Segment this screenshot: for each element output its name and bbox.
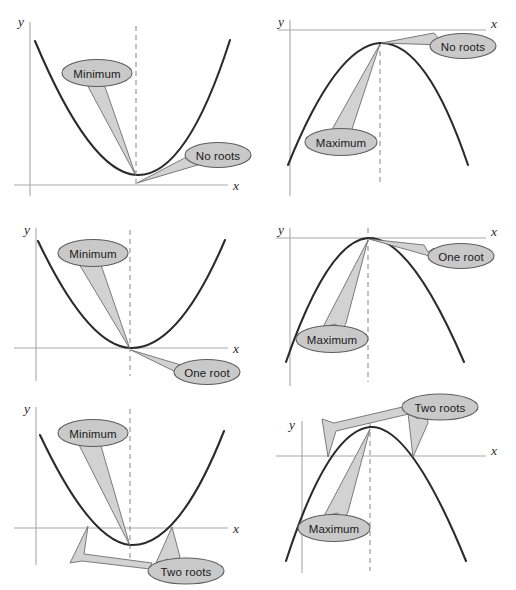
callout-one-root-label: One root [184,367,230,379]
callout-minimum-label: Minimum [69,248,116,260]
callout-minimum-label: Minimum [69,428,116,440]
callout-one-root-label: One root [438,251,484,263]
callout-two-roots-label: Two roots [415,402,466,414]
callout-minimum: Minimum [58,240,130,350]
callout-maximum-label: Maximum [316,137,367,149]
callout-maximum-label: Maximum [307,334,358,346]
callout-maximum: Maximum [305,44,380,156]
panel-top-right: y x No roots Maximum [258,0,516,197]
x-axis-label: x [490,16,497,31]
callout-no-roots-label: No roots [441,41,485,53]
parabola-curve [286,427,466,561]
callout-no-roots: No roots [137,143,251,184]
callout-maximum-pointer [330,44,380,141]
callout-maximum: Maximum [298,429,370,542]
panel-bottom-right: y x Two roots Maximum [258,393,516,590]
callout-one-root: One root [369,239,494,269]
callout-two-roots-label: Two roots [161,566,212,578]
panel-middle-left: y x Minimum One root [0,196,258,393]
x-axis-label: x [232,521,239,536]
panel-top-left: y x Minimum No roots [0,0,258,197]
callout-minimum-label: Minimum [73,68,120,80]
callout-no-roots-label: No roots [196,150,240,162]
y-axis-label: y [22,401,30,416]
panel-bottom-left: y x Minimum Two roots [0,393,258,590]
callout-maximum-pointer [323,240,368,336]
y-axis-label: y [22,222,30,237]
panel-middle-right: y x One root Maximum [258,196,516,393]
callout-one-root: One root [131,350,240,385]
x-axis-label: x [490,224,497,239]
callout-maximum-label: Maximum [309,523,360,535]
x-axis-label: x [490,443,497,458]
y-axis-label: y [276,222,284,237]
callout-minimum-pointer [76,431,130,546]
callout-two-roots-pointer-left [70,526,152,569]
quadratic-roots-figure: y x Minimum No roots y x [0,0,516,590]
x-axis-label: x [232,178,239,193]
y-axis-label: y [276,14,284,29]
callout-maximum: Maximum [296,240,368,353]
y-axis-label: y [287,417,295,432]
callout-minimum: Minimum [58,420,130,547]
y-axis-label: y [16,14,24,29]
callout-two-roots: Two roots [322,394,478,457]
callout-no-roots: No roots [381,33,496,59]
callout-two-roots: Two roots [70,526,224,584]
x-axis-label: x [232,341,239,356]
